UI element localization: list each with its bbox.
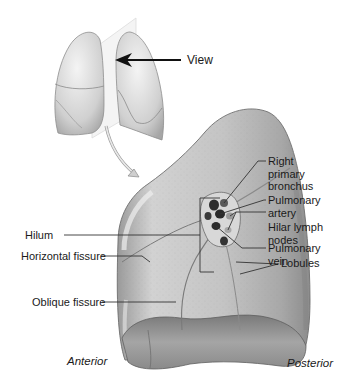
- inset-lungs: [55, 18, 181, 177]
- label-oblique-fissure: Oblique fissure: [32, 296, 105, 309]
- vessel: [209, 200, 219, 211]
- lung-anatomy-diagram: View Right primary bronchus Pulmonary ar…: [0, 0, 360, 384]
- view-label: View: [187, 54, 213, 67]
- label-pulmonary-artery: Pulmonary artery: [268, 194, 321, 219]
- label-lobules: Lobules: [281, 257, 320, 270]
- label-right-primary-bronchus: Right primary bronchus: [268, 155, 313, 193]
- label-posterior: Posterior: [287, 357, 333, 370]
- label-hilum: Hilum: [25, 229, 53, 242]
- label-horizontal-fissure: Horizontal fissure: [21, 250, 106, 263]
- label-anterior: Anterior: [67, 355, 107, 368]
